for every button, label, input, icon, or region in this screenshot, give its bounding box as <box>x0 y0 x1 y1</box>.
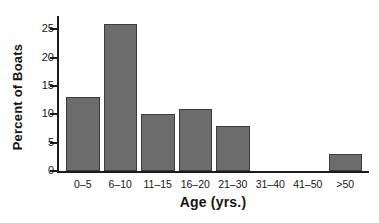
x-axis-title: Age (yrs.) <box>57 194 369 210</box>
x-tick-label: 31–40 <box>252 178 290 191</box>
bar <box>329 154 363 171</box>
y-tick-label: 10 <box>42 106 54 120</box>
y-tick-label: 0 <box>48 163 54 177</box>
x-tick-label: 16–20 <box>177 178 215 191</box>
x-tick-label: 21–30 <box>214 178 252 191</box>
y-tick-label: 5 <box>48 135 54 149</box>
x-tick-label: 11–15 <box>139 178 177 191</box>
histogram-chart: Percent of Boats 0510152025 0–56–1011–15… <box>0 0 379 223</box>
y-axis-line <box>57 16 59 173</box>
bar <box>104 24 138 171</box>
bar <box>216 126 250 171</box>
y-tick-label: 25 <box>42 21 54 35</box>
bar <box>179 109 213 171</box>
y-tick-label: 15 <box>42 78 54 92</box>
x-tick-label: 0–5 <box>64 178 102 191</box>
x-tick-label: >50 <box>327 178 365 191</box>
bar <box>66 97 100 171</box>
x-tick-label: 6–10 <box>102 178 140 191</box>
x-tick-label: 41–50 <box>289 178 327 191</box>
y-tick-label: 20 <box>42 50 54 64</box>
y-axis-title: Percent of Boats <box>4 4 30 190</box>
bar <box>141 114 175 171</box>
plot-area: 0510152025 0–56–1011–1516–2021–3031–4041… <box>57 16 369 173</box>
x-axis-line <box>57 171 369 173</box>
